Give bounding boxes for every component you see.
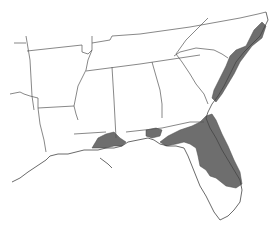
coastline (12, 12, 268, 220)
range-map (0, 0, 279, 237)
range-atlantic-coast (212, 22, 266, 102)
range-florida-peninsula (160, 114, 242, 188)
range-gulf-ms-al (92, 132, 126, 148)
range-areas (92, 22, 266, 188)
